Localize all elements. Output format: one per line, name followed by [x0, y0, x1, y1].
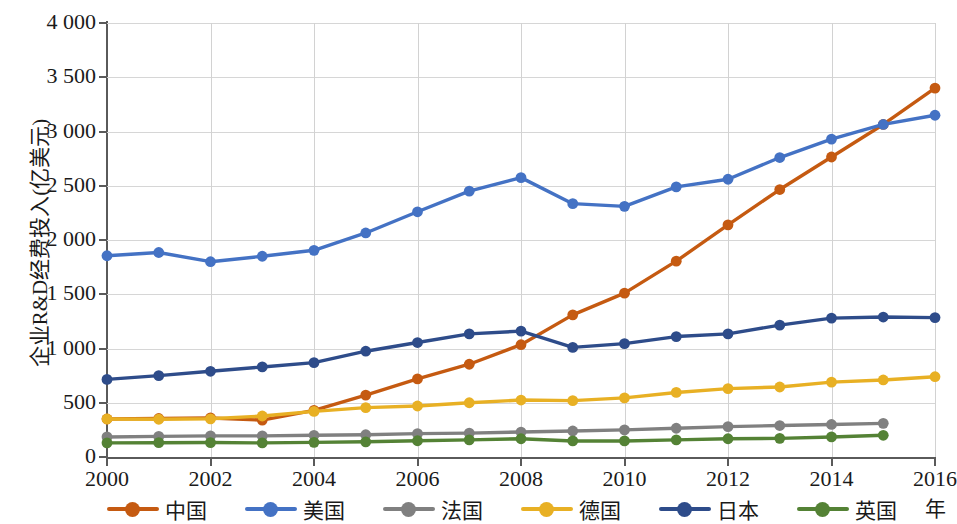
data-point [567, 309, 578, 320]
data-point [153, 437, 164, 448]
data-point [930, 312, 941, 323]
data-point [723, 421, 734, 432]
data-point [723, 433, 734, 444]
legend-item-德国[interactable]: 德国 [521, 494, 621, 524]
y-tick-label: 3 500 [0, 63, 96, 89]
data-point [102, 414, 113, 425]
series-layer [107, 23, 935, 457]
data-point [464, 328, 475, 339]
legend-label: 日本 [717, 494, 759, 524]
data-point [723, 328, 734, 339]
x-tick-mark [106, 457, 108, 466]
data-point [619, 288, 630, 299]
data-point [516, 172, 527, 183]
data-point [723, 219, 734, 230]
x-tick-mark [624, 457, 626, 466]
legend-swatch-icon [659, 501, 711, 517]
y-tick-mark [99, 22, 107, 24]
x-tick-label: 2008 [499, 466, 543, 492]
data-point [567, 426, 578, 437]
data-point [309, 437, 320, 448]
data-point [671, 256, 682, 267]
data-point [774, 184, 785, 195]
data-point [516, 395, 527, 406]
data-point [774, 320, 785, 331]
data-point [412, 401, 423, 412]
data-point [930, 371, 941, 382]
data-point [826, 432, 837, 443]
y-tick-label: 3 000 [0, 118, 96, 144]
data-point [826, 134, 837, 145]
data-point [516, 339, 527, 350]
legend-item-日本[interactable]: 日本 [659, 494, 759, 524]
y-tick-label: 4 000 [0, 9, 96, 35]
data-point [567, 198, 578, 209]
legend-swatch-icon [107, 501, 159, 517]
x-tick-label: 2004 [292, 466, 336, 492]
data-point [878, 418, 889, 429]
data-point [878, 375, 889, 386]
data-point [412, 206, 423, 217]
data-point [516, 433, 527, 444]
legend-swatch-icon [521, 501, 573, 517]
data-point [360, 390, 371, 401]
data-point [412, 337, 423, 348]
legend-item-中国[interactable]: 中国 [107, 494, 207, 524]
series-美国 [102, 110, 941, 267]
legend-swatch-icon [797, 501, 849, 517]
data-point [671, 331, 682, 342]
data-point [619, 338, 630, 349]
data-point [360, 228, 371, 239]
series-中国 [102, 83, 941, 426]
data-point [671, 181, 682, 192]
y-tick-label: 2 500 [0, 172, 96, 198]
data-point [257, 437, 268, 448]
x-tick-label: 2002 [189, 466, 233, 492]
x-tick-mark [831, 457, 833, 466]
legend-label: 美国 [303, 494, 345, 524]
x-tick-mark [934, 457, 936, 466]
legend-swatch-icon [245, 501, 297, 517]
y-tick-label: 2 000 [0, 226, 96, 252]
legend-swatch-icon [383, 501, 435, 517]
data-point [360, 402, 371, 413]
data-point [723, 383, 734, 394]
x-tick-label: 2000 [85, 466, 129, 492]
data-point [619, 392, 630, 403]
data-point [567, 436, 578, 447]
x-tick-mark [210, 457, 212, 466]
data-point [360, 346, 371, 357]
data-point [464, 397, 475, 408]
data-point [619, 424, 630, 435]
x-tick-mark [313, 457, 315, 466]
data-point [671, 434, 682, 445]
x-tick-mark [417, 457, 419, 466]
legend-item-美国[interactable]: 美国 [245, 494, 345, 524]
data-point [257, 411, 268, 422]
data-point [153, 370, 164, 381]
y-tick-mark [99, 239, 107, 241]
x-axis-title: 年 [925, 492, 946, 522]
data-point [671, 387, 682, 398]
legend-item-法国[interactable]: 法国 [383, 494, 483, 524]
series-德国 [102, 371, 941, 424]
x-tick-label: 2006 [396, 466, 440, 492]
data-point [619, 436, 630, 447]
x-tick-mark [727, 457, 729, 466]
data-point [153, 414, 164, 425]
data-point [205, 366, 216, 377]
chart-legend: 中国美国法国德国日本英国 [107, 494, 907, 524]
data-point [102, 250, 113, 261]
legend-item-英国[interactable]: 英国 [797, 494, 897, 524]
data-point [153, 247, 164, 258]
y-tick-mark [99, 131, 107, 133]
y-tick-mark [99, 293, 107, 295]
x-tick-label: 2010 [603, 466, 647, 492]
legend-label: 英国 [855, 494, 897, 524]
data-point [309, 245, 320, 256]
data-point [205, 256, 216, 267]
data-point [878, 119, 889, 130]
y-tick-mark [99, 402, 107, 404]
x-tick-label: 2014 [810, 466, 854, 492]
x-tick-label: 2016 [913, 466, 957, 492]
